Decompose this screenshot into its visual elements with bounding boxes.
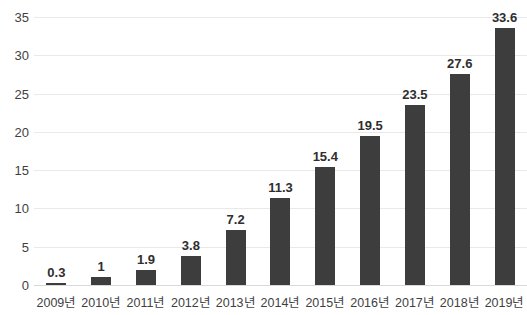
x-tick-slot: 2012년: [168, 293, 213, 311]
x-tick-slot: 2017년: [393, 293, 438, 311]
x-tick-label: 2017년: [395, 296, 435, 310]
bar-slot[interactable]: 11.3: [258, 0, 303, 286]
bar[interactable]: 23.5: [405, 105, 425, 285]
x-tick-slot: 2016년: [348, 293, 393, 311]
plot-area: 0.311.93.87.211.315.419.523.527.633.6: [34, 0, 527, 286]
x-tick-slot: 2013년: [213, 293, 258, 311]
bar[interactable]: 19.5: [360, 136, 380, 285]
bar-value-label: 33.6: [492, 11, 517, 24]
x-tick-label: 2015년: [305, 296, 345, 310]
y-axis: 05101520253035: [0, 0, 34, 315]
x-tick-label: 2011년: [127, 296, 166, 310]
x-tick-label: 2012년: [171, 296, 211, 310]
x-tick-slot: 2018년: [437, 293, 482, 311]
bar-slot[interactable]: 15.4: [303, 0, 348, 286]
bar-value-label: 19.5: [357, 119, 382, 132]
x-tick-label: 2019년: [485, 296, 525, 310]
x-tick-slot: 2011년: [124, 293, 169, 311]
x-tick-label: 2016년: [350, 296, 390, 310]
y-tick-label: 25: [15, 87, 29, 100]
y-tick-label: 5: [22, 240, 29, 253]
x-tick-label: 2014년: [261, 296, 301, 310]
bars-series: 0.311.93.87.211.315.419.523.527.633.6: [34, 0, 527, 286]
bar-slot[interactable]: 7.2: [213, 0, 258, 286]
x-tick-label: 2018년: [440, 296, 480, 310]
bar[interactable]: 7.2: [226, 230, 246, 285]
bar[interactable]: 33.6: [495, 28, 515, 285]
bar-slot[interactable]: 19.5: [348, 0, 393, 286]
bar[interactable]: 3.8: [181, 256, 201, 285]
bar-value-label: 7.2: [227, 213, 245, 226]
bar-slot[interactable]: 23.5: [393, 0, 438, 286]
x-axis: 2009년2010년2011년2012년2013년2014년2015년2016년…: [34, 288, 527, 315]
bar[interactable]: 1: [91, 277, 111, 285]
bar[interactable]: 1.9: [136, 270, 156, 285]
bar-chart: 05101520253035 0.311.93.87.211.315.419.5…: [0, 0, 527, 315]
x-tick-slot: 2014년: [258, 293, 303, 311]
bar-value-label: 23.5: [402, 88, 427, 101]
y-tick-label: 35: [15, 11, 29, 24]
bar[interactable]: 0.3: [46, 283, 66, 285]
bar[interactable]: 15.4: [315, 167, 335, 285]
bar-value-label: 3.8: [182, 239, 200, 252]
bar-value-label: 15.4: [313, 150, 338, 163]
bar-slot[interactable]: 27.6: [437, 0, 482, 286]
x-tick-slot: 2009년: [34, 293, 79, 311]
bar-slot[interactable]: 1.9: [124, 0, 169, 286]
bar-value-label: 1: [98, 260, 105, 273]
x-tick-label: 2013년: [216, 296, 256, 310]
bar-value-label: 0.3: [47, 266, 65, 279]
x-tick-slot: 2015년: [303, 293, 348, 311]
bar-slot[interactable]: 33.6: [482, 0, 527, 286]
x-tick-label: 2009년: [37, 296, 77, 310]
y-tick-label: 30: [15, 49, 29, 62]
x-tick-slot: 2010년: [79, 293, 124, 311]
y-tick-label: 20: [15, 125, 29, 138]
y-tick-label: 15: [15, 164, 29, 177]
y-tick-label: 0: [22, 279, 29, 292]
bar-value-label: 27.6: [447, 57, 472, 70]
bar[interactable]: 27.6: [450, 74, 470, 285]
y-tick-label: 10: [15, 202, 29, 215]
bar[interactable]: 11.3: [270, 198, 290, 285]
x-tick-label: 2010년: [81, 296, 121, 310]
bar-value-label: 1.9: [137, 253, 155, 266]
bar-slot[interactable]: 1: [79, 0, 124, 286]
bar-value-label: 11.3: [268, 181, 293, 194]
bar-slot[interactable]: 3.8: [168, 0, 213, 286]
bar-slot[interactable]: 0.3: [34, 0, 79, 286]
x-tick-slot: 2019년: [482, 293, 527, 311]
